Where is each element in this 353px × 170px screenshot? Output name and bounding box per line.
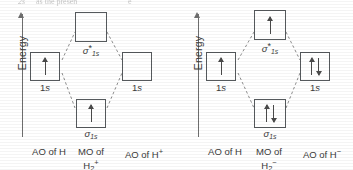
orbital-label-right-ao-h2minus: 1s — [295, 82, 335, 93]
orbital-box-left-ao-h2plus[interactable] — [30, 52, 60, 81]
electron-spins-left-ao-h2minus — [218, 57, 225, 76]
orbital-label-antibonding-h2minus: σ*1s — [245, 41, 295, 55]
orbital-box-bonding-h2plus[interactable] — [76, 99, 106, 128]
orbital-box-left-ao-h2minus[interactable] — [206, 52, 236, 81]
mo-diagram-h2-plus: Energy σ*1s 1s — [0, 0, 176, 170]
electron-spin-up-icon — [218, 57, 225, 76]
electron-spins-bonding-h2plus — [88, 104, 95, 123]
electron-spins-antibonding-h2minus — [267, 16, 274, 35]
orbital-label-right-ao-h2plus: 1s — [117, 82, 157, 93]
orbital-label-bonding-h2plus: σ1s — [66, 128, 116, 140]
orbital-label-antibonding-h2plus: σ*1s — [66, 43, 116, 57]
electron-spin-up-icon — [263, 104, 270, 123]
orbital-box-antibonding-h2minus[interactable] — [254, 10, 286, 40]
orbital-label-left-ao-h2minus: 1s — [201, 82, 241, 93]
orbital-label-bonding-h2minus: σ1s — [245, 128, 295, 140]
orbital-box-right-ao-h2plus[interactable] — [122, 52, 152, 81]
orbital-box-right-ao-h2minus[interactable] — [300, 52, 330, 81]
orbital-box-bonding-h2minus[interactable] — [254, 99, 286, 128]
electron-spins-bonding-h2minus — [263, 104, 277, 123]
electron-spin-up-icon — [42, 57, 49, 76]
mo-diagram-h2-minus: Energy σ*1s 1s — [176, 0, 353, 170]
orbital-label-left-ao-h2plus: 1s — [25, 82, 65, 93]
mo-diagram-board: Energy σ*1s 1s — [0, 0, 353, 170]
electron-spin-down-icon — [270, 104, 277, 123]
electron-spins-right-ao-h2minus — [308, 57, 322, 76]
orbital-box-antibonding-h2plus[interactable] — [75, 12, 107, 42]
electron-spin-up-icon — [88, 104, 95, 123]
electron-spin-down-icon — [315, 57, 322, 76]
electron-spin-up-icon — [267, 16, 274, 35]
electron-spin-up-icon — [308, 57, 315, 76]
electron-spins-left-ao-h2plus — [42, 57, 49, 76]
